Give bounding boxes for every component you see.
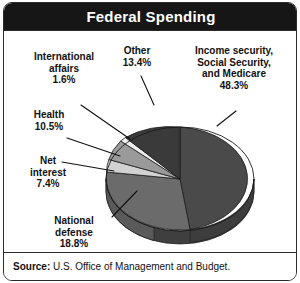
leader-line-international [81, 105, 130, 139]
source-label: Source: [13, 261, 50, 272]
label-national-defense-percent: 18.8% [22, 238, 126, 250]
label-other-line1: Other [100, 45, 174, 57]
page-title: Federal Spending [86, 9, 215, 24]
label-income-security-line2: Social Security, [174, 57, 294, 69]
source-note: Source: U.S. Office of Management and Bu… [4, 261, 230, 273]
pie-chart-area: International affairs 1.6% Other 13.4% I… [4, 31, 297, 252]
chart-footer: Source: U.S. Office of Management and Bu… [4, 253, 297, 281]
label-health-line1: Health [10, 109, 88, 121]
label-other: Other 13.4% [100, 45, 174, 68]
label-income-security-percent: 48.3% [174, 80, 294, 92]
leader-line-other [141, 76, 154, 105]
label-other-percent: 13.4% [100, 57, 174, 69]
label-income-security: Income security, Social Security, and Me… [174, 45, 294, 91]
label-income-security-line3: and Medicare [174, 68, 294, 80]
label-net-interest-percent: 7.4% [6, 178, 90, 190]
label-health: Health 10.5% [10, 109, 88, 132]
label-international-affairs-percent: 1.6% [12, 74, 116, 86]
label-net-interest: Net interest 7.4% [6, 155, 90, 190]
leader-line-health [67, 138, 120, 156]
chart-title-bar: Federal Spending [4, 3, 297, 30]
label-national-defense: National defense 18.8% [22, 215, 126, 250]
label-net-interest-line2: interest [6, 167, 90, 179]
label-net-interest-line1: Net [6, 155, 90, 167]
source-text: U.S. Office of Management and Budget. [53, 261, 230, 272]
label-national-defense-line2: defense [22, 227, 126, 239]
label-income-security-line1: Income security, [174, 45, 294, 57]
chart-card: Federal Spending [3, 2, 297, 281]
label-health-percent: 10.5% [10, 121, 88, 133]
leader-line-income [217, 111, 236, 126]
label-national-defense-line1: National [22, 215, 126, 227]
